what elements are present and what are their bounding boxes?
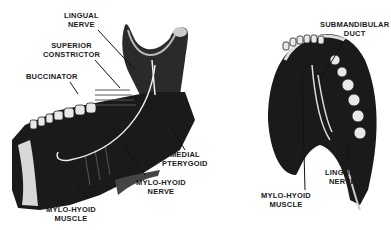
label-line: DUCT — [320, 29, 389, 38]
label-medial-pterygoid: MEDIAL PTERYGOID — [162, 150, 208, 168]
label-line: PTERYGOID — [162, 159, 208, 168]
label-line: LINGUAL — [325, 168, 360, 177]
label-mylo-hyoid-muscle-left: MYLO-HYOID MUSCLE — [46, 205, 96, 223]
label-lingual-nerve-right: LINGUAL NERVE — [325, 168, 360, 186]
label-mylo-hyoid-muscle-right: MYLO-HYOID MUSCLE — [261, 191, 311, 209]
label-line: NERVE — [64, 20, 99, 29]
label-line: MYLO-HYOID — [46, 205, 96, 214]
label-line: LINGUAL — [64, 11, 99, 20]
label-buccinator: BUCCINATOR — [26, 72, 78, 81]
label-line: MYLO-HYOID — [136, 178, 186, 187]
label-line: MEDIAL — [162, 150, 208, 159]
label-line: BUCCINATOR — [26, 72, 78, 81]
label-line: MYLO-HYOID — [261, 191, 311, 200]
label-line: SUPERIOR — [43, 41, 100, 50]
label-submandibular-duct: SUBMANDIBULAR DUCT — [320, 20, 389, 38]
label-line: CONSTRICTOR — [43, 50, 100, 59]
label-line: NERVE — [325, 177, 360, 186]
label-line: NERVE — [136, 187, 186, 196]
label-mylo-hyoid-nerve: MYLO-HYOID NERVE — [136, 178, 186, 196]
right-mandible-drawing — [268, 34, 377, 210]
label-superior-constrictor: SUPERIOR CONSTRICTOR — [43, 41, 100, 59]
label-lingual-nerve-left: LINGUAL NERVE — [64, 11, 99, 29]
label-line: MUSCLE — [261, 200, 311, 209]
label-line: MUSCLE — [46, 214, 96, 223]
label-line: SUBMANDIBULAR — [320, 20, 389, 29]
